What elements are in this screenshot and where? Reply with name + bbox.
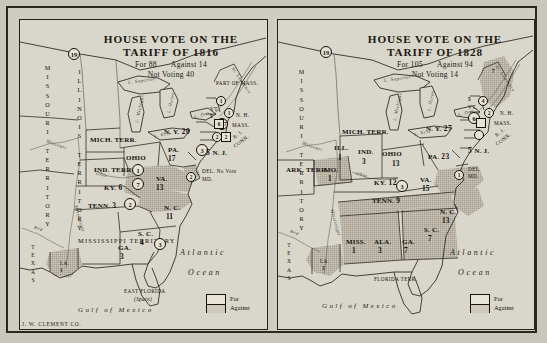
- territory-label-east-florida-spain: (Spain): [134, 296, 152, 302]
- ocean-label-ocean: Ocean: [188, 268, 222, 277]
- va-name: VA.: [156, 175, 168, 183]
- tenn-name: TENN.: [88, 202, 110, 210]
- territory-label-florida: FLORIDA TERR.: [374, 276, 417, 282]
- la-votes: 3: [322, 265, 325, 271]
- ill-votes: 1: [338, 153, 342, 162]
- for-count: For 105: [397, 60, 423, 69]
- legend-swatch-box: [206, 294, 226, 313]
- del-name: DEL.: [468, 166, 481, 172]
- state-label-vt: VT.: [210, 106, 219, 112]
- legend-label-against: Against: [494, 304, 514, 311]
- ga-votes: 7: [404, 246, 408, 255]
- mo-votes: 1: [328, 174, 332, 183]
- pa-votes: 17: [168, 154, 175, 163]
- state-label-nh: N. H.: [500, 110, 513, 116]
- vt-name: VT.: [210, 106, 219, 112]
- mass-against-badge: 6: [214, 119, 224, 129]
- legend-1816: For Against: [206, 294, 262, 314]
- mo-name: MO.: [324, 166, 338, 174]
- ark-terr-text: ARK. TERR.: [286, 166, 328, 174]
- ri-against-badge: 2: [221, 132, 231, 142]
- state-label-ill: ILL.: [334, 144, 349, 152]
- ill-name: ILL.: [334, 144, 349, 152]
- state-label-nj: 5 N. J.: [206, 148, 227, 157]
- nc-votes: 13: [442, 216, 449, 225]
- ky-name: KY.: [374, 179, 386, 187]
- legend-label-for: For: [230, 295, 239, 302]
- ind-name: IND.: [358, 148, 373, 156]
- pa-votes: 23: [441, 152, 450, 161]
- michigan-terr-text: MICH. TERR.: [90, 136, 137, 144]
- territory-label-texas: TEXAS: [30, 244, 36, 285]
- nc-name: N. C.: [440, 208, 456, 216]
- nc-votes: 11: [166, 212, 173, 221]
- del-votes: No Vote: [217, 168, 237, 174]
- del-for-badge: 1: [454, 170, 464, 180]
- ny-votes: 20: [182, 127, 191, 136]
- va-votes: 13: [156, 183, 163, 192]
- map-panel-tariff-1816: HOUSE VOTE ON THE TARIFF OF 1816 For 88A…: [19, 19, 268, 330]
- miss-name: MISS.: [346, 238, 366, 246]
- tenn-against-badge: 2: [124, 198, 136, 210]
- ala-votes: 3: [378, 246, 382, 255]
- ohio-name: OHIO: [382, 150, 402, 158]
- state-label-ind: IND.: [358, 148, 373, 156]
- territory-label-texas: TEXAS: [286, 242, 292, 283]
- legend-swatch-against: [471, 304, 489, 313]
- state-label-pa: PA. 23: [428, 152, 450, 161]
- ocean-label-ocean: Ocean: [458, 268, 492, 277]
- title-line-2: TARIFF OF 1816: [80, 46, 262, 59]
- state-label-nh: N. H.: [236, 112, 249, 118]
- la-votes: 1: [60, 267, 63, 273]
- legend-swatch-box: [470, 294, 490, 313]
- against-count: Against 94: [437, 60, 473, 69]
- ky-votes: 6: [118, 183, 122, 192]
- nj-votes: 5: [206, 148, 210, 157]
- legend-swatch-divider: [207, 304, 225, 305]
- ohio-votes: 13: [392, 159, 399, 168]
- mass-votes: 7: [224, 121, 227, 127]
- conn-badge: [474, 130, 484, 140]
- state-label-ga: GA.: [402, 238, 415, 246]
- pa-name: PA.: [168, 146, 179, 154]
- territory-label-east-florida: EAST FLORIDA: [124, 288, 165, 294]
- state-label-sc: S. C.: [138, 230, 153, 238]
- state-label-tenn: TENN. 3: [88, 201, 117, 210]
- ky-name: KY.: [104, 184, 116, 192]
- ga-votes: 3: [120, 252, 124, 261]
- vt-against-badge: 1: [216, 96, 226, 106]
- map-panel-tariff-1828: HOUSE VOTE ON THE TARIFF OF 1828 For 105…: [277, 19, 535, 330]
- state-label-mo: MO.: [324, 166, 338, 174]
- state-label-pa: PA.: [168, 146, 179, 154]
- legend-swatch-divider: [471, 304, 489, 305]
- ala-name: ALA.: [374, 238, 391, 246]
- nh-against-badge: 1: [224, 108, 234, 118]
- ga-name: GA.: [118, 244, 131, 252]
- la-name: LA.: [60, 260, 69, 266]
- for-count: For 88: [135, 60, 157, 69]
- tenn-name: TENN.: [372, 197, 394, 205]
- ocean-label-atlantic: Atlantic: [180, 248, 226, 257]
- state-label-sc: S. C.: [424, 226, 439, 234]
- md-against-badge: 2: [186, 172, 196, 182]
- vt-against-badge: 4: [478, 96, 488, 106]
- territory-label-michigan: MICH. TERR.: [90, 136, 137, 144]
- nj-votes: 5: [468, 146, 472, 155]
- nj-name: N. J.: [212, 149, 227, 157]
- state-label-la: LA.: [320, 258, 329, 264]
- legend-label-against: Against: [230, 304, 250, 311]
- sc-votes: 4: [140, 238, 144, 247]
- state-label-ga: GA.: [118, 244, 131, 252]
- canada-marker-badge: 19: [320, 46, 332, 58]
- state-label-md: MD.: [202, 176, 213, 182]
- title-line-1: HOUSE VOTE ON THE: [80, 33, 262, 46]
- gulf-label: Gulf of Mexico: [78, 306, 154, 314]
- ind-votes: 3: [362, 157, 366, 166]
- michigan-terr-text: MICH. TERR.: [342, 128, 389, 136]
- nc-name: N. C.: [164, 204, 180, 212]
- state-label-la: LA.: [60, 260, 69, 266]
- gulf-label: Gulf of Mexico: [322, 302, 398, 310]
- del-name: DEL.: [202, 168, 215, 174]
- sc-against-badge: 3: [154, 238, 166, 250]
- mass-badge: [476, 118, 486, 128]
